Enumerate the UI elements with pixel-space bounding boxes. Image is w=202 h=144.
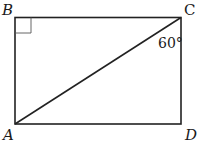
vertex-label-d: D [184,126,197,144]
vertex-label-b: B [1,1,13,19]
rectangle-diagram: B C A D 60° [0,0,202,144]
vertex-label-a: A [1,126,14,144]
right-angle-marker [15,18,31,34]
angle-label-60: 60° [158,35,183,51]
vertex-label-c: C [184,1,195,19]
diagonal-ac [15,18,181,125]
